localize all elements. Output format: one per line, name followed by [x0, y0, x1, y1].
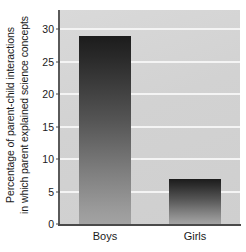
y-axis-tick-mark: [56, 159, 60, 160]
y-axis-tick-label: 15: [42, 121, 54, 133]
bar-chart-figure: Percentage of parent-child interactions …: [0, 0, 246, 252]
x-axis-tick-label: Girls: [184, 230, 207, 242]
x-axis-tick-label: Boys: [93, 230, 117, 242]
y-axis-tick-label: 30: [42, 23, 54, 35]
x-axis-tick-labels: BoysGirls: [60, 230, 240, 250]
plot-area: [60, 10, 240, 224]
y-axis-tick-mark: [56, 94, 60, 95]
y-axis-tick-mark: [56, 191, 60, 192]
y-axis-tick-label: 25: [42, 56, 54, 68]
y-axis-title-text: Percentage of parent-child interactions …: [3, 16, 31, 214]
y-axis-tick-mark: [56, 126, 60, 127]
bar-boys: [79, 36, 131, 224]
y-axis-title-line-2: in which parent explained science concep…: [17, 16, 31, 214]
y-axis-tick-mark: [56, 61, 60, 62]
y-axis-tick-mark: [56, 29, 60, 30]
x-axis-line: [58, 224, 241, 226]
y-axis-tick-labels: 051015202530: [34, 0, 56, 252]
y-axis-tick-label: 20: [42, 88, 54, 100]
y-axis-tick-label: 0: [48, 218, 54, 230]
y-axis-title-line-1: Percentage of parent-child interactions: [3, 16, 17, 214]
y-axis-tick-mark: [56, 224, 60, 225]
y-axis-tick-label: 10: [42, 153, 54, 165]
y-axis-tick-label: 5: [48, 186, 54, 198]
y-axis-title: Percentage of parent-child interactions …: [0, 0, 34, 230]
bar-girls: [169, 179, 221, 224]
gridline: [60, 28, 240, 30]
